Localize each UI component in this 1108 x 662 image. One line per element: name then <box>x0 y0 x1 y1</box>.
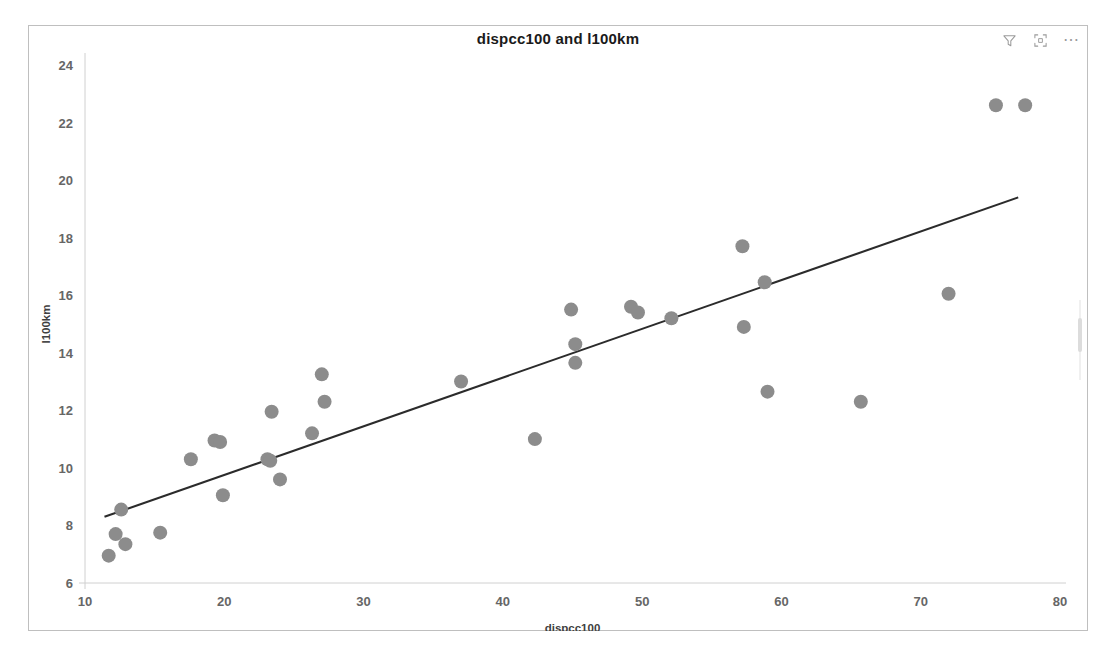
scatter-point[interactable]: dispcc100 58.8, l100km 16.45 <box>758 275 772 289</box>
x-axis-tick-label: 30 <box>356 594 370 609</box>
y-axis-tick-label: 20 <box>59 173 73 188</box>
scatter-point[interactable]: dispcc100 12.9, l100km 7.35 <box>118 537 132 551</box>
scatter-point[interactable]: dispcc100 19.9, l100km 9.05 <box>216 488 230 502</box>
scatter-point[interactable]: dispcc100 24, l100km 9.6 <box>273 472 287 486</box>
scatter-point[interactable]: dispcc100 44.9, l100km 15.5 <box>564 303 578 317</box>
scatter-point[interactable]: dispcc100 26.3, l100km 11.2 <box>305 426 319 440</box>
plot-area: 6810121416182022241020304050607080dispcc… <box>28 25 1088 631</box>
y-axis-tick-label: 18 <box>59 231 73 246</box>
scatter-point[interactable]: dispcc100 12.6, l100km 8.55 <box>114 503 128 517</box>
scatter-point[interactable]: dispcc100 49.7, l100km 15.4 <box>631 305 645 319</box>
scatter-point[interactable]: dispcc100 37, l100km 13 <box>454 375 468 389</box>
scatter-point[interactable]: dispcc100 17.6, l100km 10.3 <box>184 452 198 466</box>
scatter-point[interactable]: dispcc100 27.2, l100km 12.3 <box>318 395 332 409</box>
scatter-point[interactable]: dispcc100 57.3, l100km 14.9 <box>737 320 751 334</box>
scatter-point[interactable]: dispcc100 57.2, l100km 17.7 <box>735 239 749 253</box>
x-axis-tick-label: 20 <box>217 594 231 609</box>
scatter-point[interactable]: dispcc100 11.7, l100km 6.95 <box>102 549 116 563</box>
y-axis-tick-label: 22 <box>59 116 73 131</box>
scatter-point[interactable]: dispcc100 65.7, l100km 12.3 <box>854 395 868 409</box>
x-axis-tick-label: 10 <box>78 594 92 609</box>
scatter-point[interactable]: dispcc100 77.5, l100km 22.6 <box>1018 98 1032 112</box>
scatter-point[interactable]: dispcc100 45.2, l100km 13.65 <box>568 356 582 370</box>
x-axis-tick-label: 70 <box>913 594 927 609</box>
scatter-point[interactable]: dispcc100 15.4, l100km 7.75 <box>153 526 167 540</box>
y-axis-tick-label: 16 <box>59 288 73 303</box>
y-axis-tick-label: 12 <box>59 403 73 418</box>
x-axis-tick-label: 40 <box>496 594 510 609</box>
scatter-point[interactable]: dispcc100 52.1, l100km 15.2 <box>664 311 678 325</box>
scatter-point[interactable]: dispcc100 23.3, l100km 10.25 <box>263 454 277 468</box>
x-axis-tick-label: 50 <box>635 594 649 609</box>
page-scrollbar-thumb[interactable] <box>1078 318 1082 352</box>
scatter-point[interactable]: dispcc100 72, l100km 16.05 <box>942 287 956 301</box>
y-axis-tick-label: 8 <box>66 518 73 533</box>
y-axis-tick-label: 14 <box>59 346 74 361</box>
y-axis-tick-label: 10 <box>59 461 73 476</box>
scatter-point[interactable]: dispcc100 42.3, l100km 11 <box>528 432 542 446</box>
scatter-point[interactable]: dispcc100 12.2, l100km 7.7 <box>109 527 123 541</box>
y-axis-tick-label: 6 <box>66 576 73 591</box>
x-axis-tick-label: 60 <box>774 594 788 609</box>
x-axis-tick-label: 80 <box>1053 594 1067 609</box>
scatter-point[interactable]: dispcc100 45.2, l100km 14.3 <box>568 337 582 351</box>
scatter-point[interactable]: dispcc100 27, l100km 13.25 <box>315 367 329 381</box>
scatter-series-0: dispcc100 11.7, l100km 6.95dispcc100 12.… <box>102 98 1032 562</box>
scatter-point[interactable]: dispcc100 59, l100km 12.65 <box>761 385 775 399</box>
scatter-point[interactable]: dispcc100 19.7, l100km 10.9 <box>213 435 227 449</box>
trend-line <box>105 197 1019 516</box>
y-axis-title: l100km <box>40 304 52 343</box>
x-axis-title: dispcc100 <box>545 622 601 631</box>
scatter-chart[interactable]: 6810121416182022241020304050607080dispcc… <box>28 25 1088 631</box>
scatter-point[interactable]: dispcc100 23.4, l100km 11.95 <box>265 405 279 419</box>
y-axis-tick-label: 24 <box>59 58 74 73</box>
scatter-visual-root: dispcc100 and l100km ⋯ 68101214161820222… <box>0 0 1108 662</box>
scatter-point[interactable]: dispcc100 75.4, l100km 22.6 <box>989 98 1003 112</box>
